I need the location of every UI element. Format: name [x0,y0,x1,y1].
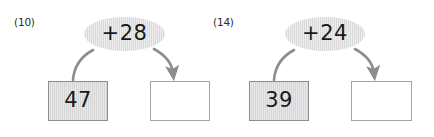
problem-group-1: (10) +28 47 [0,0,217,137]
worksheet-canvas: (10) +28 47 (14) [0,0,434,137]
curve-from-start-box-to-operation [73,50,93,80]
answer-input-box[interactable] [351,81,412,121]
operation-label: +28 [102,23,148,44]
arrow-from-operation-to-answer-box [154,49,173,73]
start-value-text: 47 [64,90,92,111]
operation-label: +24 [302,23,348,44]
operation-bubble: +24 [285,17,365,51]
operation-bubble: +28 [84,17,165,51]
start-value-box: 47 [48,81,108,121]
curve-from-start-box-to-operation [274,50,294,80]
problem-group-2: (14) +24 39 [199,0,416,137]
start-value-box: 39 [249,81,309,121]
start-value-text: 39 [265,90,293,111]
arrow-from-operation-to-answer-box [355,49,374,73]
